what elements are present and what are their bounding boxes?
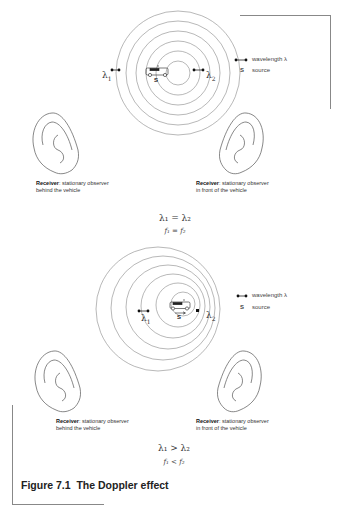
bottom-lambda2-label: λ2	[206, 310, 216, 322]
top-legend-source: source	[252, 67, 270, 73]
top-equation-lambda: λ₁ = λ₂	[145, 213, 205, 223]
bottom-wavelength-marker-right	[196, 309, 199, 312]
top-lambda1-label: λ1	[102, 70, 112, 82]
top-receiver-right-caption: Receiver: stationary observer in front o…	[196, 180, 296, 194]
figure-title: Figure 7.1 The Doppler effect	[21, 479, 169, 491]
bottom-lambda1-label: λ1	[141, 313, 151, 325]
top-receiver-left-caption: Receiver: stationary observer behind the…	[36, 180, 136, 194]
top-wave-diagram	[0, 0, 348, 510]
bottom-wavefronts	[96, 247, 220, 371]
bottom-equation-frequency: f₁ < f₂	[144, 458, 204, 466]
top-right-ear-icon	[219, 113, 263, 174]
bottom-legend-source: source	[252, 304, 270, 310]
top-wavelength-marker-left	[111, 69, 121, 72]
top-legend-wavelength-marker	[235, 59, 248, 62]
top-left-ear-icon	[33, 113, 79, 174]
bottom-wavelength-marker-left	[138, 310, 150, 313]
bottom-car-icon	[170, 300, 190, 310]
bottom-right-ear-icon	[217, 351, 261, 412]
bottom-receiver-right-caption: Receiver: stationary observer in front o…	[196, 418, 296, 432]
top-equation-frequency: f₁ = f₂	[145, 227, 205, 235]
top-wavefronts	[116, 11, 240, 135]
top-source-label: S	[154, 77, 158, 83]
bottom-legend-wavelength-marker	[237, 295, 248, 298]
top-wavelength-marker-right	[193, 69, 205, 72]
bottom-equation-lambda: λ₁ > λ₂	[144, 443, 204, 453]
bottom-receiver-left-caption: Receiver: stationary observer behind the…	[56, 418, 156, 432]
top-lambda2-label: λ2	[206, 70, 216, 82]
top-legend-wavelength: wavelength λ	[252, 56, 287, 62]
bottom-source-label: S	[177, 314, 181, 320]
top-car-icon	[146, 66, 168, 77]
bottom-left-ear-icon	[35, 351, 81, 412]
bottom-legend-wavelength: wavelength λ	[252, 292, 287, 298]
top-legend-source-symbol: S	[240, 67, 244, 73]
bottom-legend-source-symbol: S	[240, 304, 244, 310]
